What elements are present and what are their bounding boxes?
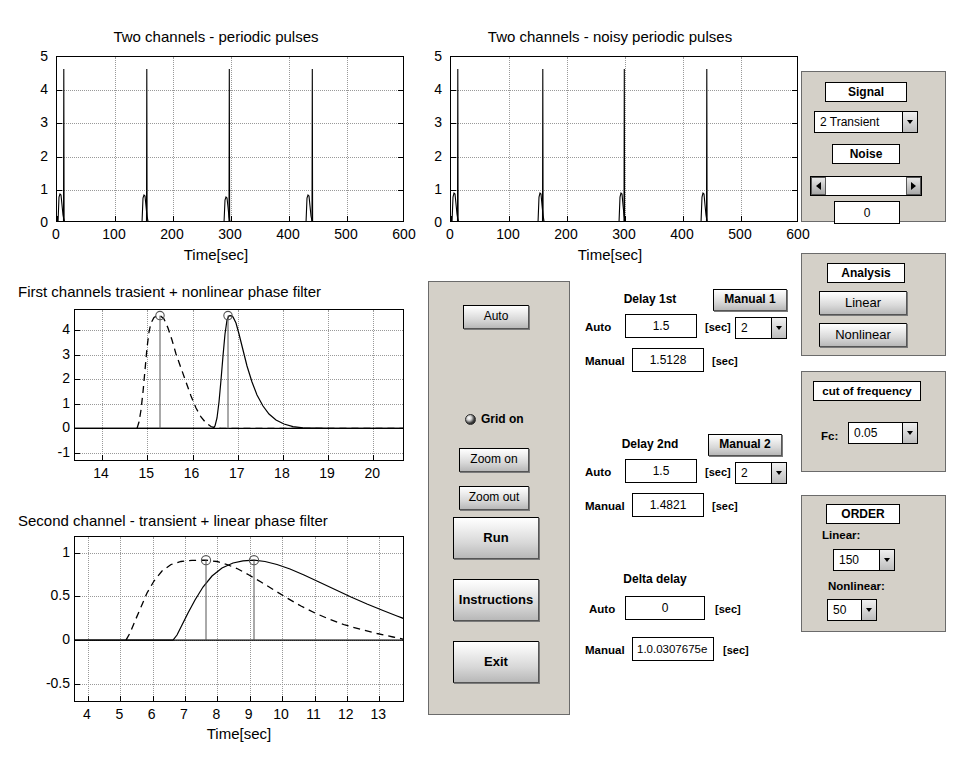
tick-mark — [231, 216, 232, 221]
y-tick-label: 0 — [44, 419, 70, 435]
tick-mark — [567, 216, 568, 221]
x-tick-label: 12 — [338, 706, 354, 722]
chart-second-channel-plot-area — [74, 536, 404, 702]
y-tick-label: 2 — [24, 148, 48, 164]
delta-delay-auto-value[interactable]: 0 — [625, 596, 705, 620]
chevron-down-icon[interactable] — [771, 318, 786, 338]
tick-mark — [75, 330, 80, 331]
chart-periodic-curves — [57, 57, 404, 222]
tick-mark — [792, 90, 797, 91]
y-tick-label: 1 — [418, 181, 442, 197]
delay-1st-title: Delay 1st — [600, 292, 700, 306]
noise-value-field[interactable]: 0 — [834, 201, 900, 224]
tick-mark — [683, 216, 684, 221]
delay-2nd-auto-value[interactable]: 1.5 — [625, 459, 697, 483]
run-button[interactable]: Run — [453, 517, 539, 559]
delay-1st-manual-value[interactable]: 1.5128 — [632, 348, 704, 372]
order-linear-selector[interactable]: 150 — [833, 549, 895, 571]
order-linear-label: Linear: — [822, 529, 860, 541]
tick-mark — [398, 157, 403, 158]
signal-selector-value: 2 Transient — [815, 115, 902, 129]
x-tick-label: 300 — [218, 226, 241, 242]
delay-2nd-manual-label: Manual — [585, 500, 625, 512]
chevron-down-icon[interactable] — [861, 600, 876, 620]
chart-second-channel-title: Second channel - transient + linear phas… — [18, 512, 418, 529]
chevron-down-icon[interactable] — [879, 550, 894, 570]
analysis-panel: Analysis Linear Nonlinear — [801, 253, 946, 356]
x-tick-label: 18 — [274, 465, 290, 481]
tick-mark — [120, 696, 121, 701]
delta-delay-group: Delta delay Auto 0 [sec] Manual 1.0.0307… — [585, 572, 800, 652]
manual-1-button[interactable]: Manual 1 — [713, 289, 787, 311]
tick-mark — [398, 190, 403, 191]
x-tick-label: 100 — [102, 226, 125, 242]
chart-noisy-title: Two channels - noisy periodic pulses — [410, 28, 810, 45]
zoom-out-button[interactable]: Zoom out — [459, 486, 529, 510]
exit-button[interactable]: Exit — [453, 641, 539, 683]
chart-noisy-plot-area — [450, 56, 798, 222]
tick-mark — [75, 553, 80, 554]
order-nonlinear-label: Nonlinear: — [828, 580, 885, 592]
linear-analysis-button[interactable]: Linear — [819, 291, 907, 315]
signal-selector[interactable]: 2 Transient — [814, 111, 918, 133]
order-nonlinear-selector[interactable]: 50 — [827, 599, 877, 621]
chevron-down-icon[interactable] — [902, 423, 917, 443]
chart-noisy-periodic-pulses: Two channels - noisy periodic pulses — [410, 28, 810, 268]
grid-on-label: Grid on — [481, 412, 524, 426]
fc-label: Fc: — [821, 430, 838, 442]
chevron-down-icon[interactable] — [771, 463, 786, 483]
x-tick-label: 20 — [365, 465, 381, 481]
y-tick-label: 0 — [418, 214, 442, 230]
tick-mark — [57, 123, 62, 124]
delta-delay-manual-value[interactable]: 1.0.0307675e — [632, 637, 714, 661]
analysis-title: Analysis — [827, 263, 905, 283]
x-tick-label: 16 — [184, 465, 200, 481]
delay-1st-auto-value[interactable]: 1.5 — [625, 314, 697, 338]
delay-1st-manual-label: Manual — [585, 355, 625, 367]
y-tick-label: 2 — [418, 148, 442, 164]
tick-mark — [75, 684, 80, 685]
y-tick-label: 4 — [24, 81, 48, 97]
noise-slider[interactable] — [810, 176, 922, 196]
tick-mark — [792, 123, 797, 124]
slider-right-arrow-icon[interactable] — [906, 177, 921, 195]
slider-left-arrow-icon[interactable] — [811, 177, 826, 195]
delay-2nd-manual-value[interactable]: 1.4821 — [632, 493, 704, 517]
x-tick-label: 9 — [245, 706, 253, 722]
x-tick-label: 4 — [83, 706, 91, 722]
cut-of-frequency-title: cut of frequency — [813, 381, 921, 401]
tick-mark — [398, 90, 403, 91]
instructions-button[interactable]: Instructions — [453, 579, 539, 621]
manual-2-button[interactable]: Manual 2 — [708, 434, 782, 456]
tick-mark — [115, 216, 116, 221]
delay-2nd-selector[interactable]: 2 — [735, 462, 787, 484]
control-button-panel: Auto Grid on Zoom on Zoom out Run Instru… — [428, 281, 570, 715]
x-tick-label: 600 — [786, 226, 809, 242]
nonlinear-analysis-button[interactable]: Nonlinear — [819, 323, 907, 347]
tick-mark — [57, 157, 62, 158]
x-tick-label: 7 — [180, 706, 188, 722]
x-tick-label: 500 — [334, 226, 357, 242]
tick-mark — [282, 696, 283, 701]
delay-1st-group: Delay 1st Manual 1 Auto 1.5 [sec] 2 Manu… — [585, 292, 800, 372]
tick-mark — [75, 428, 80, 429]
y-tick-label: -0.5 — [26, 675, 70, 691]
x-tick-label: 6 — [148, 706, 156, 722]
auto-button[interactable]: Auto — [463, 305, 529, 329]
chevron-down-icon[interactable] — [902, 112, 917, 132]
grid-on-toggle[interactable]: Grid on — [465, 412, 524, 426]
tick-mark — [217, 696, 218, 701]
x-tick-label: 8 — [212, 706, 220, 722]
tick-mark — [451, 157, 456, 158]
y-tick-label: 0 — [24, 214, 48, 230]
delta-delay-auto-label: Auto — [589, 603, 615, 615]
slider-track[interactable] — [826, 177, 906, 195]
y-tick-label: 2 — [44, 370, 70, 386]
fc-selector[interactable]: 0.05 — [848, 422, 918, 444]
y-tick-label: -1 — [38, 444, 70, 460]
order-nonlinear-value: 50 — [828, 603, 861, 617]
zoom-on-button[interactable]: Zoom on — [459, 448, 529, 472]
delay-1st-selector[interactable]: 2 — [735, 317, 787, 339]
signal-title: Signal — [825, 82, 907, 102]
delay-2nd-selector-value: 2 — [736, 466, 771, 480]
